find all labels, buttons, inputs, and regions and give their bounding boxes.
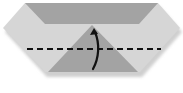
fold-diagram-svg [0,0,183,93]
origami-diagram [0,0,183,93]
top-flap [25,3,158,24]
